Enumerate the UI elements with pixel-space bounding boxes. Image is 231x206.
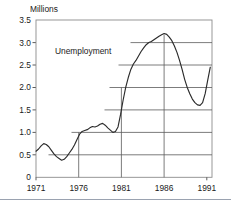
y-tick-label-2: 1.0 [19,127,31,137]
unemployment-chart-figure: Millions 0 0.5 1.0 1.5 2.0 2.5 3.0 3.5 [0,0,231,206]
y-tick-label-4: 2.0 [19,82,31,92]
y-tick-label-5: 2.5 [19,60,31,70]
y-tick-label-7: 3.5 [19,15,31,25]
unemployment-annotation-label: Unemployment [55,46,112,56]
y-axis-title: Millions [30,4,58,14]
horizontal-gridlines [49,43,213,155]
y-tick-label-3: 1.5 [19,105,31,115]
y-tick-label-6: 3.0 [19,38,31,48]
x-tick-label-1976: 1976 [69,183,88,193]
x-tick-labels: 1971 1976 1981 1986 1991 [27,183,217,193]
y-tick-label-1: 0.5 [19,150,31,160]
x-tick-label-1986: 1986 [155,183,174,193]
y-tick-marks [33,43,37,155]
y-axis-title-group: Millions [30,4,58,14]
x-tick-label-1971: 1971 [27,183,46,193]
y-tick-label-0: 0 [26,172,31,182]
vertical-gridlines [79,35,164,178]
x-tick-label-1981: 1981 [112,183,131,193]
chart-canvas: Millions 0 0.5 1.0 1.5 2.0 2.5 3.0 3.5 [0,0,231,206]
x-tick-label-1991: 1991 [197,183,216,193]
annotation-group: Unemployment [55,46,112,56]
y-tick-labels: 0 0.5 1.0 1.5 2.0 2.5 3.0 3.5 [19,15,31,182]
